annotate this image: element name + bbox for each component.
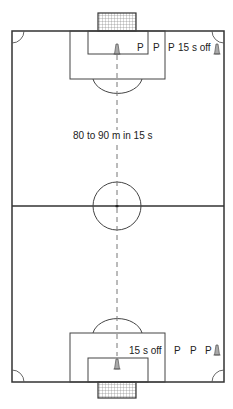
bottom-player-1: P — [174, 345, 181, 357]
top-player-1: P — [137, 42, 144, 54]
corner-arc-tl — [12, 31, 24, 43]
center-distance-label: 80 to 90 m in 15 s — [73, 130, 153, 142]
top-player-2: P — [153, 42, 160, 54]
bottom-goal-net-icon — [98, 382, 136, 398]
cone-icon — [214, 345, 221, 355]
corner-arc-br — [212, 370, 224, 382]
top-rest-label: 15 s off — [178, 42, 211, 54]
cone-icon — [114, 44, 121, 54]
top-player-3: P — [168, 42, 175, 54]
corner-arc-bl — [12, 370, 24, 382]
bottom-rest-label: 15 s off — [129, 345, 162, 357]
bottom-player-2: P — [190, 345, 197, 357]
corner-arc-tr — [212, 31, 224, 43]
center-spot — [115, 204, 118, 207]
soccer-field-diagram — [0, 0, 233, 409]
cone-icon — [114, 359, 121, 369]
top-goal-net-icon — [98, 13, 136, 31]
bottom-player-3: P — [205, 345, 212, 357]
cone-icon — [214, 44, 221, 54]
